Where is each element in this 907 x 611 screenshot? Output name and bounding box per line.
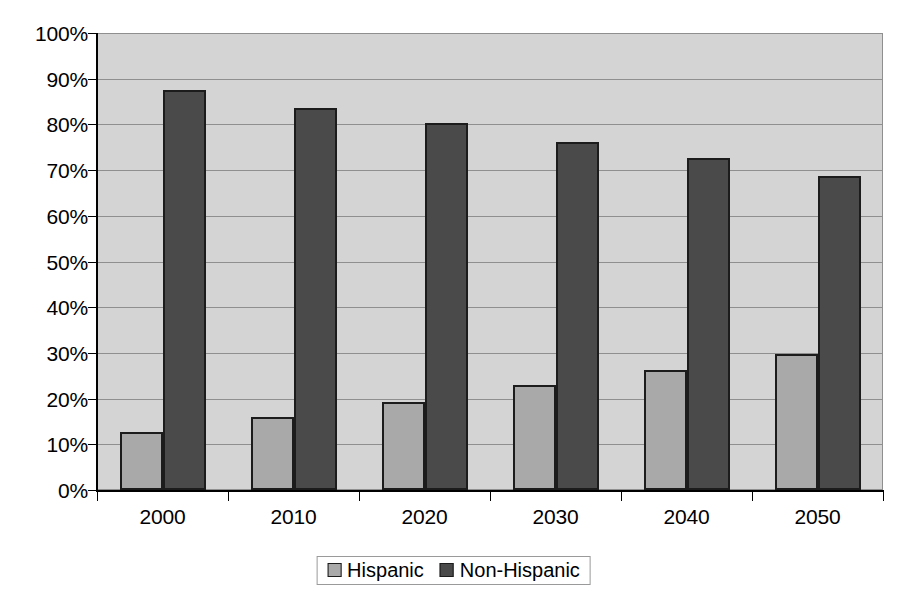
bar-2030-hispanic bbox=[513, 385, 556, 490]
bar-2020-hispanic bbox=[382, 402, 425, 490]
y-axis-tick-label: 0% bbox=[0, 480, 88, 501]
chart-legend: HispanicNon-Hispanic bbox=[316, 556, 591, 585]
y-axis-tick-mark bbox=[88, 170, 97, 171]
gridline bbox=[98, 216, 882, 217]
bar-2000-hispanic bbox=[120, 432, 163, 490]
x-axis-tick-mark bbox=[359, 492, 360, 501]
legend-swatch-icon bbox=[327, 563, 341, 577]
chart-canvas: 0%10%20%30%40%50%60%70%80%90%100% 200020… bbox=[0, 0, 907, 611]
x-axis-tick-label: 2050 bbox=[795, 505, 841, 529]
x-axis-tick-label: 2030 bbox=[533, 505, 579, 529]
plot-area bbox=[97, 33, 883, 490]
y-axis-tick-label: 100% bbox=[0, 23, 88, 44]
y-axis-tick-label: 20% bbox=[0, 388, 88, 409]
bar-2000-non-hispanic bbox=[163, 90, 206, 490]
gridline bbox=[98, 399, 882, 400]
y-axis-tick-mark bbox=[88, 490, 97, 491]
x-axis-tick-mark bbox=[752, 492, 753, 501]
y-axis-tick-label: 90% bbox=[0, 68, 88, 89]
x-axis-tick-mark bbox=[621, 492, 622, 501]
y-axis-labels: 0%10%20%30%40%50%60%70%80%90%100% bbox=[0, 0, 88, 611]
bar-2010-hispanic bbox=[251, 417, 294, 490]
x-axis-tick-mark bbox=[883, 492, 884, 501]
y-axis-tick-label: 40% bbox=[0, 297, 88, 318]
x-axis-tick-mark bbox=[97, 492, 98, 501]
bar-2030-non-hispanic bbox=[556, 142, 599, 490]
bar-2010-non-hispanic bbox=[294, 108, 337, 490]
legend-swatch-icon bbox=[440, 563, 454, 577]
y-axis-tick-label: 30% bbox=[0, 342, 88, 363]
y-axis-tick-mark bbox=[88, 444, 97, 445]
y-axis-tick-mark bbox=[88, 262, 97, 263]
bar-2020-non-hispanic bbox=[425, 123, 468, 490]
gridline bbox=[98, 170, 882, 171]
legend-item-hispanic: Hispanic bbox=[327, 560, 424, 580]
gridline bbox=[98, 444, 882, 445]
gridline bbox=[98, 307, 882, 308]
y-axis-tick-mark bbox=[88, 307, 97, 308]
legend-label: Non-Hispanic bbox=[460, 560, 580, 580]
x-axis-tick-mark bbox=[490, 492, 491, 501]
gridline bbox=[98, 79, 882, 80]
y-axis-tick-mark bbox=[88, 33, 97, 34]
x-axis-tick-label: 2000 bbox=[140, 505, 186, 529]
x-axis-tick-label: 2020 bbox=[402, 505, 448, 529]
bar-2040-non-hispanic bbox=[687, 158, 730, 490]
legend-item-nonhispanic: Non-Hispanic bbox=[440, 560, 580, 580]
y-axis-tick-mark bbox=[88, 79, 97, 80]
y-axis-tick-mark bbox=[88, 399, 97, 400]
x-axis-tick-label: 2010 bbox=[271, 505, 317, 529]
y-axis-tick-mark bbox=[88, 353, 97, 354]
y-axis-tick-label: 50% bbox=[0, 251, 88, 272]
bar-2050-non-hispanic bbox=[818, 176, 861, 490]
legend-label: Hispanic bbox=[347, 560, 424, 580]
y-axis-tick-mark bbox=[88, 216, 97, 217]
x-axis-tick-mark bbox=[228, 492, 229, 501]
gridline bbox=[98, 262, 882, 263]
y-axis-tick-label: 70% bbox=[0, 160, 88, 181]
bar-2050-hispanic bbox=[775, 354, 818, 490]
bar-2040-hispanic bbox=[644, 370, 687, 490]
x-axis-tick-label: 2040 bbox=[664, 505, 710, 529]
y-axis-tick-label: 80% bbox=[0, 114, 88, 135]
y-axis-tick-mark bbox=[88, 124, 97, 125]
y-axis-tick-label: 10% bbox=[0, 434, 88, 455]
gridline bbox=[98, 353, 882, 354]
y-axis-tick-label: 60% bbox=[0, 205, 88, 226]
gridline bbox=[98, 124, 882, 125]
